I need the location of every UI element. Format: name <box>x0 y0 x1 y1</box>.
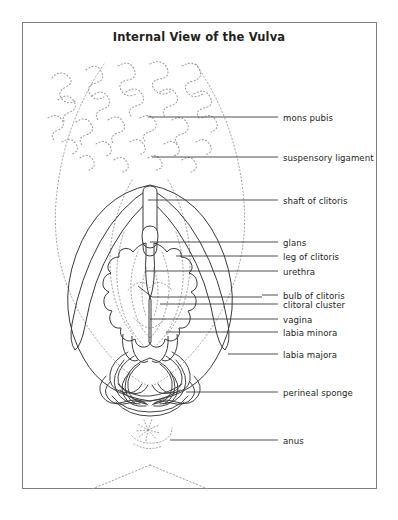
callout-label-suspensory-ligament: suspensory ligament <box>283 153 374 163</box>
callout-label-anus: anus <box>283 436 304 446</box>
callout-label-shaft-of-clitoris: shaft of clitoris <box>283 196 348 206</box>
callout-label-mons-pubis: mons pubis <box>283 113 333 123</box>
callout-label-labia-minora: labia minora <box>283 328 337 338</box>
callout-label-urethra: urethra <box>283 267 315 277</box>
figure-root: Internal View of the Vulva <box>0 0 398 520</box>
callout-label-clitoral-cluster: clitoral cluster <box>283 300 345 310</box>
callout-label-labia-majora: labia majora <box>283 350 337 360</box>
callout-label-glans: glans <box>283 238 306 248</box>
callout-label-vagina: vagina <box>283 315 312 325</box>
buttock-crease-lines <box>92 465 208 489</box>
callout-label-stubs <box>262 117 278 440</box>
perineal-sponge-network <box>100 352 201 416</box>
anus-starburst <box>132 419 172 449</box>
callout-label-perineal-sponge: perineal sponge <box>283 388 353 398</box>
clitoris-shaft-and-glans <box>142 186 158 256</box>
callout-label-leg-of-clitoris: leg of clitoris <box>283 252 339 262</box>
